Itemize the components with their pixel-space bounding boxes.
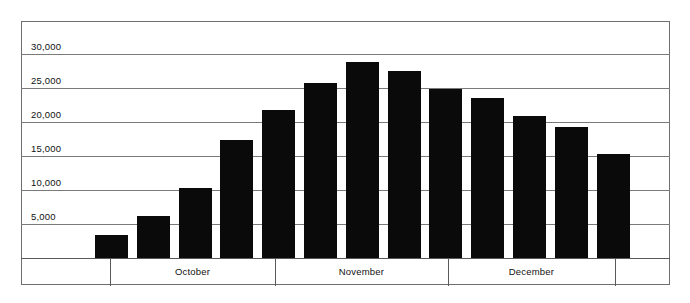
- bars-layer: [21, 21, 670, 258]
- bar: [95, 235, 128, 258]
- category-label-november: November: [275, 266, 448, 278]
- bar: [597, 154, 630, 258]
- category-divider-4: [615, 259, 616, 286]
- bar: [179, 188, 212, 258]
- bar: [388, 71, 421, 258]
- bar: [262, 110, 295, 258]
- category-label-october: October: [110, 266, 275, 278]
- category-label-december: December: [448, 266, 615, 278]
- bar: [220, 140, 253, 259]
- bar: [429, 89, 462, 258]
- bar: [346, 62, 379, 258]
- plot-area: 30,000 25,000 20,000 15,000 10,000 5,000: [21, 21, 670, 258]
- bar-chart: 30,000 25,000 20,000 15,000 10,000 5,000…: [0, 0, 690, 303]
- bar: [513, 116, 546, 258]
- bar: [555, 127, 588, 258]
- bar: [137, 216, 170, 258]
- category-axis-band: October November December: [21, 258, 670, 285]
- bar: [304, 83, 337, 258]
- bar: [471, 98, 504, 258]
